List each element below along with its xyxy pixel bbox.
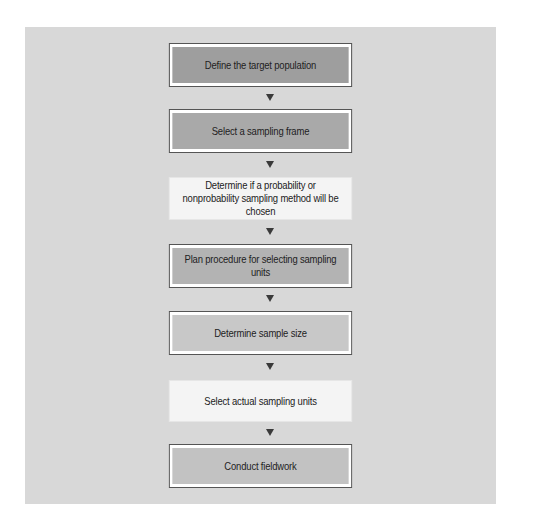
step-label: Conduct fieldwork xyxy=(217,460,303,473)
down-arrow-icon xyxy=(266,161,274,168)
step-plan-procedure: Plan procedure for selecting sampling un… xyxy=(169,244,352,288)
step-label: Select actual sampling units xyxy=(197,395,323,408)
step-label: Determine sample size xyxy=(207,327,313,340)
step-define-target-population: Define the target population xyxy=(169,43,352,87)
step-select-sampling-frame: Select a sampling frame xyxy=(169,109,352,153)
down-arrow-icon xyxy=(266,429,274,436)
step-label: Select a sampling frame xyxy=(205,125,316,138)
down-arrow-icon xyxy=(266,228,274,235)
step-label: Define the target population xyxy=(198,59,323,72)
step-label: Plan procedure for selecting sampling un… xyxy=(170,253,351,279)
step-select-actual-units: Select actual sampling units xyxy=(169,380,352,422)
down-arrow-icon xyxy=(266,94,274,101)
step-determine-sample-size: Determine sample size xyxy=(169,311,352,355)
down-arrow-icon xyxy=(266,295,274,302)
step-conduct-fieldwork: Conduct fieldwork xyxy=(169,444,352,488)
step-determine-sampling-method: Determine if a probability or nonprobabi… xyxy=(169,177,352,220)
step-label: Determine if a probability or nonprobabi… xyxy=(170,179,351,218)
down-arrow-icon xyxy=(266,363,274,370)
